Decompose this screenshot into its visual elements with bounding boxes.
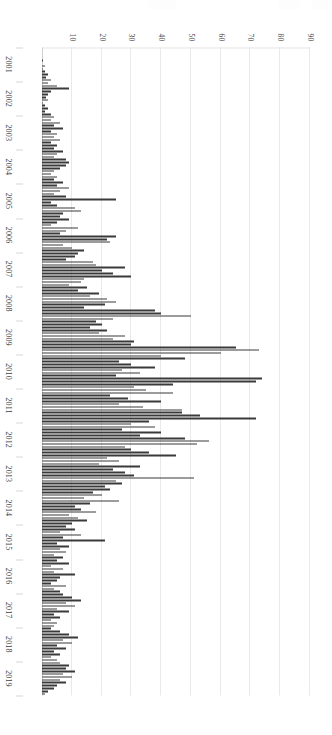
bar xyxy=(42,662,60,664)
bar xyxy=(42,87,69,89)
bar xyxy=(42,676,72,678)
bar xyxy=(42,357,185,359)
bar xyxy=(42,352,221,354)
bar xyxy=(42,195,66,197)
bar xyxy=(42,289,78,291)
bar xyxy=(42,630,60,632)
bar xyxy=(42,525,66,527)
bar xyxy=(42,227,78,229)
bar xyxy=(42,258,66,260)
bar xyxy=(42,411,182,413)
bar xyxy=(42,599,81,601)
bar xyxy=(42,247,72,249)
bar xyxy=(42,519,87,521)
year-separator xyxy=(16,388,23,389)
bar xyxy=(42,312,161,314)
value-tick-label: 80 xyxy=(276,3,284,41)
bar xyxy=(42,437,185,439)
bar xyxy=(42,485,105,487)
bar xyxy=(42,536,63,538)
bar xyxy=(42,355,161,357)
bar xyxy=(42,79,51,81)
value-tick-label: 30 xyxy=(127,3,135,41)
bar xyxy=(42,252,78,254)
bar xyxy=(42,619,51,621)
bar xyxy=(42,269,102,271)
bar xyxy=(42,647,66,649)
bar xyxy=(42,139,60,141)
bar xyxy=(42,576,60,578)
bar xyxy=(42,548,60,550)
rotated-bar-chart-figure: 102030405060708090 200120022003200420052… xyxy=(0,0,332,735)
gridline xyxy=(190,47,191,695)
gridline xyxy=(220,47,221,695)
value-tick-label: 70 xyxy=(246,3,254,41)
value-tick-label: 50 xyxy=(187,3,195,41)
bar xyxy=(42,264,96,266)
bar xyxy=(42,571,54,573)
year-separator xyxy=(16,218,23,219)
bar xyxy=(42,551,66,553)
bar xyxy=(42,335,125,337)
bar xyxy=(42,190,60,192)
bar xyxy=(42,380,256,382)
year-separator xyxy=(16,559,23,560)
bar xyxy=(42,426,155,428)
bar xyxy=(42,511,96,513)
bar xyxy=(42,488,110,490)
bar xyxy=(42,113,51,115)
bar xyxy=(42,127,63,129)
bar xyxy=(42,272,113,274)
bar xyxy=(42,170,54,172)
bar xyxy=(42,440,209,442)
bar xyxy=(42,423,131,425)
gridline xyxy=(309,47,310,695)
bar xyxy=(42,218,69,220)
bar xyxy=(42,320,96,322)
bar xyxy=(42,301,116,303)
bar xyxy=(42,110,45,112)
bar xyxy=(42,70,45,72)
bar xyxy=(42,545,69,547)
bar xyxy=(42,96,46,98)
bar xyxy=(42,681,66,683)
bar xyxy=(42,664,69,666)
bar xyxy=(42,295,90,297)
gridline xyxy=(130,47,131,695)
bar xyxy=(42,284,69,286)
bar xyxy=(42,153,57,155)
bar xyxy=(42,474,134,476)
bar xyxy=(42,266,125,268)
year-tick-label: 2019 xyxy=(4,658,13,698)
gridline xyxy=(249,47,250,695)
year-separator xyxy=(16,320,23,321)
year-separator xyxy=(16,627,23,628)
bar xyxy=(42,161,69,163)
bar xyxy=(42,517,78,519)
bar xyxy=(42,451,149,453)
bar xyxy=(42,406,143,408)
bar xyxy=(42,82,48,84)
bar xyxy=(42,477,194,479)
bar xyxy=(42,482,122,484)
bar xyxy=(42,303,105,305)
year-separator xyxy=(16,252,23,253)
bar xyxy=(42,178,54,180)
bar xyxy=(42,309,155,311)
bar xyxy=(42,369,122,371)
bar xyxy=(42,659,57,661)
bar xyxy=(42,431,161,433)
bar xyxy=(42,363,131,365)
bar xyxy=(42,585,66,587)
bar xyxy=(42,329,108,331)
bar xyxy=(42,281,81,283)
bar xyxy=(42,627,51,629)
bar xyxy=(42,249,84,251)
bar xyxy=(42,684,57,686)
bar xyxy=(42,448,131,450)
value-tick-label: 90 xyxy=(306,3,314,41)
bar xyxy=(42,460,119,462)
bar xyxy=(42,141,51,143)
bar xyxy=(42,656,51,658)
bar xyxy=(42,366,155,368)
